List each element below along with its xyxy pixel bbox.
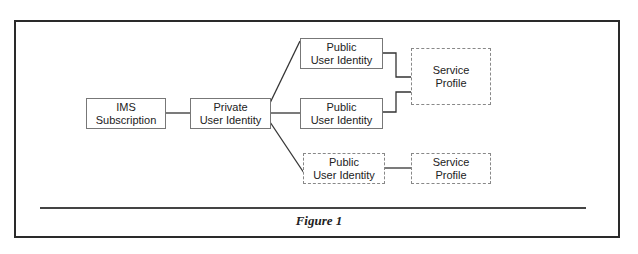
node-label-line2: User Identity xyxy=(200,114,262,127)
node-label-line2: Profile xyxy=(435,169,466,182)
node-label-line2: User Identity xyxy=(311,114,373,127)
node-service-profile-1: Service Profile xyxy=(411,48,491,105)
node-public-user-identity-2: Public User Identity xyxy=(300,98,383,129)
node-label-line2: Profile xyxy=(435,77,466,90)
node-private-user-identity: Private User Identity xyxy=(190,98,271,129)
node-ims-subscription: IMS Subscription xyxy=(86,98,166,129)
caption-divider xyxy=(40,207,586,209)
node-label-line1: Service xyxy=(433,64,470,77)
node-public-user-identity-3: Public User Identity xyxy=(303,153,385,184)
edge-public1-service1 xyxy=(382,53,411,77)
node-public-user-identity-1: Public User Identity xyxy=(300,38,383,69)
node-label-line1: Public xyxy=(329,156,359,169)
edge-private-public1 xyxy=(270,41,300,103)
edge-private-public3 xyxy=(270,122,304,173)
node-label-line2: User Identity xyxy=(313,169,375,182)
node-label-line2: Subscription xyxy=(96,114,157,127)
node-label-line1: Public xyxy=(327,101,357,114)
node-label-line1: Public xyxy=(327,41,357,54)
figure-caption: Figure 1 xyxy=(0,213,638,229)
node-label-line2: User Identity xyxy=(311,54,373,67)
node-label-line1: IMS xyxy=(116,101,136,114)
node-label-line1: Private xyxy=(213,101,247,114)
edge-public2-service1 xyxy=(382,92,411,112)
node-label-line1: Service xyxy=(433,156,470,169)
node-service-profile-2: Service Profile xyxy=(411,153,491,184)
